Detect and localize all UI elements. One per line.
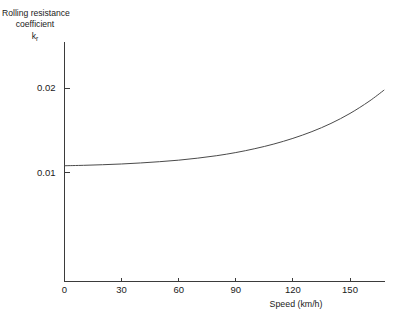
x-tick-label: 150 — [342, 284, 358, 295]
x-axis-ticks: 0306090120150 — [62, 278, 358, 295]
x-tick-label: 0 — [62, 284, 67, 295]
plot-area: 0306090120150 0.010.02 — [0, 0, 393, 319]
y-tick-label: 0.02 — [37, 82, 56, 93]
x-tick-label: 90 — [231, 284, 242, 295]
x-tick-label: 60 — [173, 284, 184, 295]
chart-figure: Rolling resistance coefficient kr Speed … — [0, 0, 393, 319]
x-tick-label: 30 — [116, 284, 127, 295]
y-tick-label: 0.01 — [37, 167, 56, 178]
x-tick-label: 120 — [285, 284, 301, 295]
data-curve-rolling-resistance — [65, 90, 385, 166]
